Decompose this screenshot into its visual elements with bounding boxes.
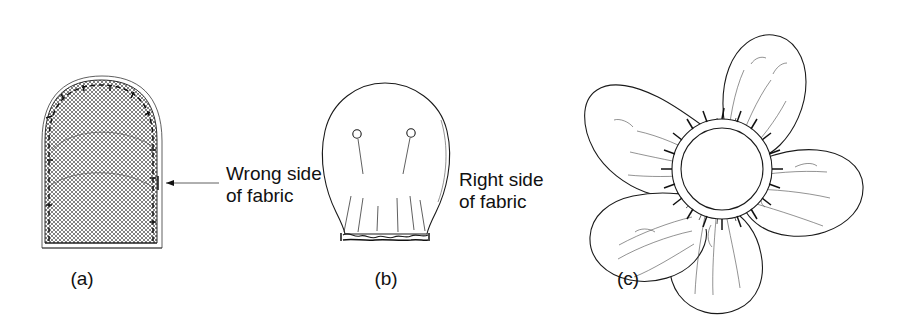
flower-center-inner-circle (681, 128, 763, 210)
panel-b-petal-outline (322, 83, 449, 234)
caption-a: (a) (70, 268, 93, 289)
panel-a-fabric-dome (45, 80, 157, 243)
construction-diagram: Wrong side of fabric (a) (0, 0, 911, 323)
wrong-side-label-line1: Wrong side (226, 163, 322, 184)
right-side-label-line1: Right side (459, 169, 544, 190)
wrong-side-label-line2: of fabric (226, 185, 294, 206)
caption-b: (b) (374, 268, 397, 289)
panel-b-gathered-edge-lower (343, 239, 428, 240)
figure-root: Wrong side of fabric (a) (0, 0, 911, 323)
right-side-label-line2: of fabric (459, 191, 527, 212)
caption-c: (c) (617, 268, 639, 289)
